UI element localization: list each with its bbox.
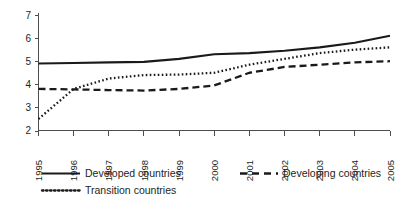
x-axis-tick-label: 1996 — [68, 160, 79, 181]
y-axis-tick-label: 3 — [25, 102, 31, 113]
x-axis-tick-label: 2000 — [209, 160, 220, 181]
line-chart: 234567 199519961997199819992000200120022… — [0, 0, 406, 206]
legend-label: Developing countries — [283, 167, 381, 179]
y-axis-tick-label: 2 — [25, 125, 31, 136]
x-axis-tick-label: 1995 — [33, 160, 44, 181]
y-axis-tick-label: 6 — [25, 33, 31, 44]
series-line-solid — [39, 36, 391, 64]
legend-label: Transition countries — [85, 184, 176, 196]
chart-canvas: 234567 199519961997199819992000200120022… — [0, 0, 406, 206]
legend-label: Developed countries — [85, 167, 181, 179]
y-axis-tick-label: 4 — [25, 79, 31, 90]
x-axis-tick-label: 2005 — [385, 160, 396, 181]
y-axis-tick-label: 5 — [25, 56, 31, 67]
y-axis-tick-marks — [35, 16, 39, 132]
data-series-group — [39, 36, 391, 119]
x-axis-tick-marks — [39, 131, 391, 136]
y-axis-tick-labels: 234567 — [25, 10, 31, 137]
y-axis-tick-label: 7 — [25, 10, 31, 21]
series-line-dotted — [39, 47, 391, 119]
x-axis-tick-label: 2001 — [244, 160, 255, 181]
series-line-dashed — [39, 61, 391, 90]
